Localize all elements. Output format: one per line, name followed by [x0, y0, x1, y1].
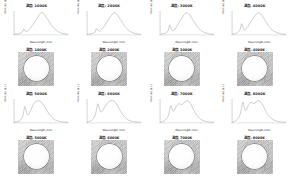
x-axis-label: Wavelength (nm): [86, 41, 142, 44]
spectrum-svg: [159, 10, 215, 38]
x-axis-label: Wavelength (nm): [231, 41, 287, 44]
x-axis-label: Wavelength (nm): [159, 129, 215, 132]
spectrum-svg: [231, 98, 287, 126]
spectrum-title: 温度: 6000K: [73, 92, 146, 96]
x-axis-label: Wavelength (nm): [13, 129, 69, 132]
image-title: 温度: 3000K: [146, 48, 219, 52]
y-axis-label: Intensity (a.u.): [77, 86, 81, 102]
spectrum-title: 温度: 5000K: [0, 92, 73, 96]
image-cell: 温度: 2000K: [73, 46, 146, 90]
spectrum-curve: [14, 13, 68, 35]
image-cell: 温度: 1000K: [0, 46, 73, 90]
image-cell: 温度: 8000K: [218, 134, 291, 178]
spectrum-title: 温度: 4000K: [218, 4, 291, 8]
y-axis-label: Intensity (a.u.): [4, 86, 8, 102]
figure-block: 温度: 1000K Intensity (a.u.) Wavelength (n…: [0, 2, 291, 90]
spectrum-cell: 温度: 4000K Intensity (a.u.) Wavelength (n…: [218, 2, 291, 46]
sample-disc: [97, 56, 122, 81]
spectrum-cell: 温度: 8000K Intensity (a.u.) Wavelength (n…: [218, 90, 291, 134]
sample-disc: [24, 56, 49, 81]
spectrum-svg: [13, 98, 69, 126]
x-axis-label: Wavelength (nm): [86, 129, 142, 132]
image-cell: 温度: 3000K: [146, 46, 219, 90]
y-axis-label: Intensity (a.u.): [222, 0, 226, 14]
sample-image: [237, 52, 273, 86]
image-title: 温度: 2000K: [73, 48, 146, 52]
image-cell: 温度: 7000K: [146, 134, 219, 178]
image-title: 温度: 1000K: [0, 48, 73, 52]
spectrum-cell: 温度: 6000K Intensity (a.u.) Wavelength (n…: [73, 90, 146, 134]
spectrum-svg: [231, 10, 287, 38]
sample-image: [18, 140, 54, 174]
spectrum-cell: 温度: 3000K Intensity (a.u.) Wavelength (n…: [146, 2, 219, 46]
sample-image: [164, 140, 200, 174]
sample-image: [18, 52, 54, 86]
spectrum-svg: [86, 10, 142, 38]
image-row: 温度: 1000K 温度: 2000K 温度: 3000K 温度: 4000K: [0, 46, 291, 90]
sample-disc: [242, 56, 267, 81]
spectrum-plot: [13, 10, 69, 38]
spectrum-title: 温度: 1000K: [0, 4, 73, 8]
sample-disc: [97, 144, 122, 169]
x-axis-label: Wavelength (nm): [13, 41, 69, 44]
spectrum-plot: [86, 98, 142, 126]
image-title: 温度: 4000K: [218, 48, 291, 52]
spectrum-cell: 温度: 7000K Intensity (a.u.) Wavelength (n…: [146, 90, 219, 134]
image-cell: 温度: 5000K: [0, 134, 73, 178]
x-axis-label: Wavelength (nm): [159, 41, 215, 44]
spectrum-curve: [14, 101, 68, 123]
spectrum-cell: 温度: 1000K Intensity (a.u.) Wavelength (n…: [0, 2, 73, 46]
spectrum-curve: [160, 101, 214, 123]
spectrum-curve: [87, 13, 141, 35]
spectrum-plot: [231, 10, 287, 38]
spectrum-title: 温度: 7000K: [146, 92, 219, 96]
image-title: 温度: 8000K: [218, 136, 291, 140]
x-axis-label: Wavelength (nm): [231, 129, 287, 132]
y-axis-label: Intensity (a.u.): [77, 0, 81, 14]
spectrum-title: 温度: 8000K: [218, 92, 291, 96]
spectrum-plot: [13, 98, 69, 126]
image-title: 温度: 7000K: [146, 136, 219, 140]
spectrum-svg: [86, 98, 142, 126]
spectrum-curve: [160, 13, 214, 35]
sample-image: [91, 140, 127, 174]
spectrum-plot: [159, 98, 215, 126]
sample-image: [164, 52, 200, 86]
spectrum-curve: [232, 13, 286, 35]
figure-block: 温度: 5000K Intensity (a.u.) Wavelength (n…: [0, 90, 291, 178]
y-axis-label: Intensity (a.u.): [150, 86, 154, 102]
spectrum-row: 温度: 5000K Intensity (a.u.) Wavelength (n…: [0, 90, 291, 134]
image-row: 温度: 5000K 温度: 6000K 温度: 7000K 温度: 8000K: [0, 134, 291, 178]
spectrum-title: 温度: 2000K: [73, 4, 146, 8]
y-axis-label: Intensity (a.u.): [4, 0, 8, 14]
sample-disc: [242, 144, 267, 169]
spectrum-curve: [87, 101, 141, 123]
sample-image: [237, 140, 273, 174]
spectrum-plot: [159, 10, 215, 38]
spectrum-svg: [159, 98, 215, 126]
spectrum-plot: [86, 10, 142, 38]
spectrum-cell: 温度: 5000K Intensity (a.u.) Wavelength (n…: [0, 90, 73, 134]
sample-disc: [169, 144, 194, 169]
spectrum-plot: [231, 98, 287, 126]
spectrum-curve: [232, 101, 286, 123]
spectrum-svg: [13, 10, 69, 38]
y-axis-label: Intensity (a.u.): [150, 0, 154, 14]
image-cell: 温度: 6000K: [73, 134, 146, 178]
image-title: 温度: 5000K: [0, 136, 73, 140]
spectrum-row: 温度: 1000K Intensity (a.u.) Wavelength (n…: [0, 2, 291, 46]
y-axis-label: Intensity (a.u.): [222, 86, 226, 102]
sample-disc: [169, 56, 194, 81]
sample-image: [91, 52, 127, 86]
sample-disc: [24, 144, 49, 169]
spectrum-cell: 温度: 2000K Intensity (a.u.) Wavelength (n…: [73, 2, 146, 46]
figure-panel-grid: 温度: 1000K Intensity (a.u.) Wavelength (n…: [0, 0, 291, 181]
image-title: 温度: 6000K: [73, 136, 146, 140]
spectrum-title: 温度: 3000K: [146, 4, 219, 8]
image-cell: 温度: 4000K: [218, 46, 291, 90]
